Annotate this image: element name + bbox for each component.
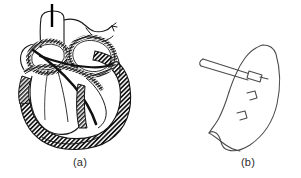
panel-a-heart-diagram [19,4,131,150]
staple-lower-icon [237,111,247,120]
left-wall-hatch [19,76,31,104]
figure-container: (a) (b) [0,0,301,178]
vessel-branch-tips [112,23,117,31]
panel-b-caption: (b) [198,156,298,168]
interventricular-septum [77,84,87,128]
tissue-flap-outer-outline [209,45,280,151]
panel-b-flap-detail [200,45,280,151]
av-groove-band [24,66,102,90]
panel-a-caption: (a) [0,156,160,168]
staple-upper-icon [247,91,257,100]
chordae-line-2 [45,70,48,120]
figure-illustration [0,0,301,178]
needle-hub-icon [247,71,262,82]
needle-shaft-lower-line [201,66,248,80]
needle-tail-cap [200,59,203,66]
